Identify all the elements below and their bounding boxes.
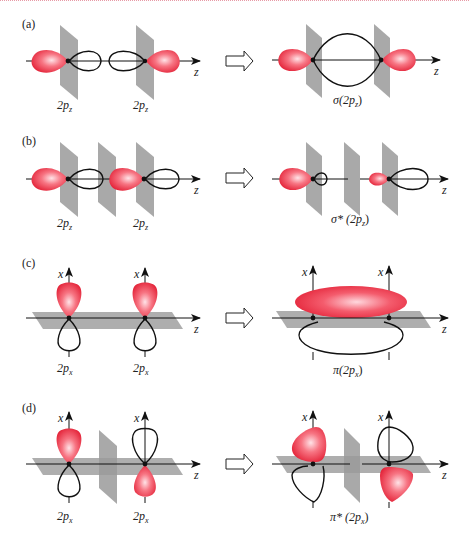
nucleus [66, 59, 71, 64]
mo-label: σ(2pz) [333, 93, 362, 109]
orbital-label: 2pz [57, 98, 73, 114]
panel-d-left: x x z 2px 2px [26, 411, 200, 525]
mo-label: σ* (2pz) [331, 212, 369, 228]
panel-c-left: x x z 2px 2px [26, 267, 200, 377]
horizontal-nodal-plane [32, 312, 183, 329]
mo-label: π(2px) [333, 363, 363, 379]
nucleus [66, 177, 71, 182]
z-axis-label: z [441, 322, 447, 336]
z-axis-label: z [193, 65, 199, 79]
panel-d-right: x x z π* (2px) [272, 410, 448, 526]
panel-d: (d) x x z 2px 2px [22, 401, 448, 526]
orbital-label: 2pz [57, 216, 73, 232]
panel-b: (b) z 2pz 2pz [22, 134, 448, 232]
nucleus [143, 462, 148, 467]
pi-bonding-lobe [295, 286, 407, 318]
panel-label-a: (a) [22, 17, 35, 31]
pi-antiphase-lobe [299, 330, 403, 354]
nucleus [142, 177, 147, 182]
nucleus [311, 177, 316, 182]
orbital-label: 2px [57, 509, 73, 525]
antibonding-positive-lobe [292, 427, 326, 462]
nucleus [67, 316, 72, 321]
z-axis-label: z [441, 468, 447, 482]
nucleus [387, 177, 392, 182]
panel-label-b: (b) [22, 134, 36, 148]
nucleus [143, 59, 147, 63]
nucleus [311, 462, 316, 467]
transition-arrow-icon [226, 308, 253, 328]
panel-c-right: x x z π(2px) [272, 265, 448, 379]
z-axis-label: z [193, 468, 199, 482]
x-axis-label: x [377, 410, 384, 424]
panel-b-left: z 2pz 2pz [26, 142, 200, 232]
z-axis-label: z [433, 64, 439, 78]
orbital-label: 2px [133, 509, 149, 525]
panel-label-d: (d) [22, 401, 36, 415]
transition-arrow-icon [226, 168, 253, 188]
z-axis-label: z [441, 183, 447, 197]
panel-a-right: z σ(2pz) [272, 24, 440, 109]
panel-a: (a) z 2pz 2pz [22, 17, 440, 114]
transition-arrow-icon [226, 51, 253, 71]
molecular-orbital-diagram: (a) z 2pz 2pz [0, 0, 469, 539]
mo-label: π* (2px) [330, 510, 369, 526]
z-axis-label: z [193, 183, 199, 197]
transition-arrow-icon [226, 454, 253, 474]
antibonding-positive-lobe [380, 467, 413, 502]
panel-label-c: (c) [22, 256, 35, 270]
nucleus [387, 316, 392, 321]
x-axis-label: x [301, 410, 308, 424]
z-axis-label: z [193, 322, 199, 336]
x-axis-label: x [57, 267, 64, 281]
orbital-label: 2px [57, 361, 73, 377]
x-axis-label: x [301, 265, 308, 279]
nucleus [67, 462, 72, 467]
nucleus [379, 58, 384, 63]
x-axis-label: x [57, 411, 64, 425]
x-axis-label: x [133, 267, 140, 281]
panel-c: (c) x x z 2px 2px [22, 256, 448, 379]
nucleus [387, 462, 392, 467]
panel-b-right: z σ* (2pz) [272, 142, 448, 228]
nucleus [311, 58, 316, 63]
orbital-label: 2px [133, 361, 149, 377]
x-axis-label: x [133, 411, 140, 425]
vertical-nodal-plane [99, 430, 117, 504]
panel-a-left: z 2pz 2pz [26, 25, 200, 114]
orbital-label: 2pz [133, 98, 149, 114]
nucleus [143, 316, 148, 321]
orbital-label: 2pz [133, 216, 149, 232]
x-axis-label: x [377, 265, 384, 279]
vertical-nodal-plane [344, 428, 360, 503]
nucleus [311, 316, 316, 321]
